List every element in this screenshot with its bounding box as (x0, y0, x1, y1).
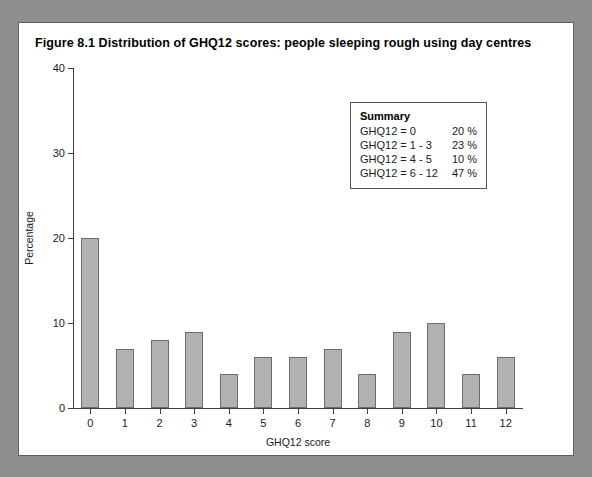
x-axis-tick (125, 409, 126, 414)
bar (116, 349, 134, 409)
x-axis-tick (229, 409, 230, 414)
y-axis-tick (68, 323, 73, 324)
summary-box: Summary GHQ12 = 020 %GHQ12 = 1 - 323 %GH… (350, 102, 487, 189)
x-axis-tick (194, 409, 195, 414)
summary-row: GHQ12 = 6 - 1247 % (360, 166, 477, 180)
x-axis-tick (333, 409, 334, 414)
x-axis-tick (90, 409, 91, 414)
x-axis-tick (367, 409, 368, 414)
summary-row-value: 47 % (452, 166, 477, 180)
bar (254, 357, 272, 408)
x-axis-tick-label: 8 (364, 417, 370, 429)
x-axis-tick-label: 7 (330, 417, 336, 429)
x-axis-tick-label: 2 (156, 417, 162, 429)
figure-title: Figure 8.1 Distribution of GHQ12 scores:… (35, 36, 531, 50)
y-axis-title: Percentage (23, 211, 35, 265)
x-axis-tick (506, 409, 507, 414)
bar (393, 332, 411, 409)
summary-row-label: GHQ12 = 4 - 5 (360, 152, 438, 166)
y-axis-tick-label: 0 (59, 402, 65, 414)
x-axis-tick-label: 9 (399, 417, 405, 429)
summary-row-label: GHQ12 = 6 - 12 (360, 166, 444, 180)
x-axis-tick (160, 409, 161, 414)
bar (151, 340, 169, 408)
x-axis-tick-label: 12 (500, 417, 512, 429)
x-axis-tick-label: 4 (226, 417, 232, 429)
summary-row: GHQ12 = 1 - 323 % (360, 138, 477, 152)
bar (358, 374, 376, 408)
summary-rows: GHQ12 = 020 %GHQ12 = 1 - 323 %GHQ12 = 4 … (360, 124, 477, 180)
y-axis-tick (68, 68, 73, 69)
bar (462, 374, 480, 408)
y-axis-line (73, 68, 74, 408)
x-axis-tick (402, 409, 403, 414)
figure-panel: Figure 8.1 Distribution of GHQ12 scores:… (18, 22, 574, 456)
y-axis-tick (68, 238, 73, 239)
y-axis-tick-label: 20 (53, 232, 65, 244)
summary-row: GHQ12 = 4 - 510 % (360, 152, 477, 166)
x-axis-tick-label: 10 (430, 417, 442, 429)
summary-heading: Summary (360, 110, 477, 122)
bar (185, 332, 203, 409)
y-axis-tick-label: 30 (53, 147, 65, 159)
bar (324, 349, 342, 409)
bar (220, 374, 238, 408)
summary-row-value: 10 % (452, 152, 477, 166)
x-axis-title: GHQ12 score (266, 436, 330, 448)
bar (289, 357, 307, 408)
x-axis-tick-label: 11 (465, 417, 476, 429)
x-axis-tick-label: 6 (295, 417, 301, 429)
x-axis-tick-label: 3 (191, 417, 197, 429)
x-axis-tick (263, 409, 264, 414)
y-axis-tick-label: 10 (53, 317, 65, 329)
y-axis-tick (68, 153, 73, 154)
summary-row-label: GHQ12 = 0 (360, 124, 422, 138)
summary-row-value: 20 % (452, 124, 477, 138)
bar (81, 238, 99, 408)
x-axis-tick (298, 409, 299, 414)
summary-row-value: 23 % (452, 138, 477, 152)
bar (497, 357, 515, 408)
y-axis-tick-label: 40 (53, 62, 65, 74)
y-axis-tick (68, 408, 73, 409)
x-axis-tick-label: 0 (87, 417, 93, 429)
x-axis-tick (436, 409, 437, 414)
x-axis-tick (471, 409, 472, 414)
summary-row: GHQ12 = 020 % (360, 124, 477, 138)
x-axis-tick-label: 5 (260, 417, 266, 429)
summary-row-label: GHQ12 = 1 - 3 (360, 138, 438, 152)
x-axis-tick-label: 1 (122, 417, 128, 429)
bar (427, 323, 445, 408)
